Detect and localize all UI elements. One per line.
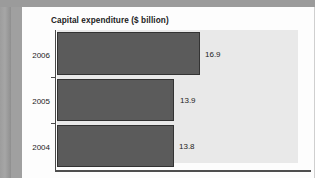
bar-value-2006: 16.9 [205, 49, 221, 58]
category-label-text: 2006 [32, 50, 50, 59]
category-label-2004: 2004 [22, 125, 50, 169]
y-axis-tick [51, 123, 56, 124]
paper-panel: Capital expenditure ($ billion) 2006 16.… [22, 7, 315, 178]
y-axis-tick [51, 77, 56, 78]
bar-chart: Capital expenditure ($ billion) 2006 16.… [22, 7, 315, 178]
bar-value-2004: 13.8 [179, 142, 195, 151]
x-axis-baseline [55, 170, 311, 172]
bar-row-2005: 13.9 [57, 79, 298, 121]
category-label-text: 2004 [32, 143, 50, 152]
page-scan: Capital expenditure ($ billion) 2006 16.… [0, 0, 315, 178]
bar-2005[interactable] [57, 79, 174, 121]
page-left-margin [0, 0, 11, 178]
bar-row-2004: 13.8 [57, 125, 298, 167]
bar-2004[interactable] [57, 125, 174, 167]
category-label-2006: 2006 [22, 32, 50, 77]
category-label-text: 2005 [32, 97, 50, 106]
bar-row-2006: 16.9 [57, 32, 298, 75]
page-top-margin [0, 0, 315, 7]
category-label-2005: 2005 [22, 79, 50, 123]
chart-title: Capital expenditure ($ billion) [51, 16, 169, 25]
bar-value-2005: 13.9 [180, 96, 196, 105]
bar-2006[interactable] [57, 32, 200, 75]
